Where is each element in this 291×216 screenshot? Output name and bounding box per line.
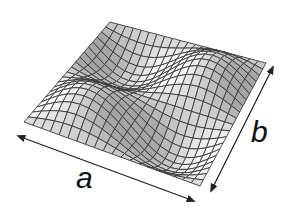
surface-plot <box>0 0 291 216</box>
surface-mesh-faces <box>24 22 266 186</box>
dimension-label-b: b <box>251 117 268 147</box>
dimension-label-a: a <box>76 163 93 193</box>
